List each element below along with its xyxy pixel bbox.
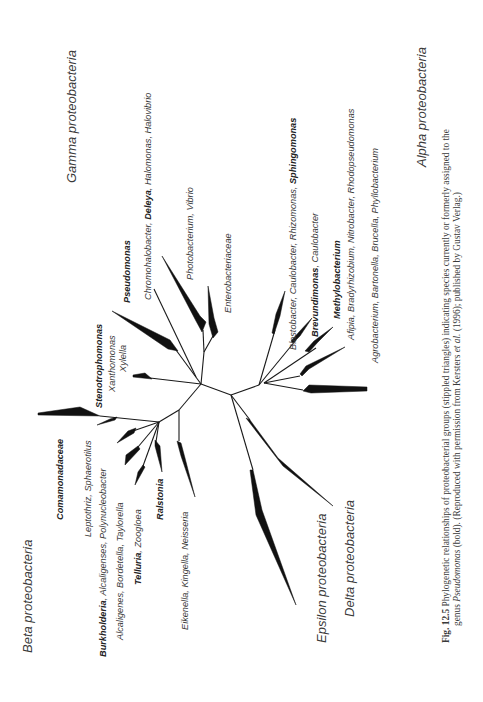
branch-xylella <box>150 378 201 384</box>
triangle-blastobacter <box>272 291 285 334</box>
taxon-leptothrix-sphaerotilus: Leptothriz, Sphaerotilus <box>83 440 93 537</box>
tree-branches <box>100 289 316 470</box>
taxon-xylella: Xylella <box>118 345 128 373</box>
label-beta-proteobacteria: Beta proteobacteria <box>20 540 35 653</box>
taxon-enterobacteriaceae: Enterobacteriaceae <box>223 233 233 313</box>
beta-taxa-labels: Comamonadaceae Leptothriz, Sphaerotilus … <box>55 439 190 657</box>
triangle-agrobacterium <box>303 385 367 393</box>
taxon-burkholderia-group: Burkholderia, Alcaligenses, Polynucleoba… <box>98 467 108 657</box>
caption-line-2: genus Pseudomonas (bold). (Reproduced wi… <box>452 192 463 626</box>
taxon-burkholderia: Burkholderia <box>98 600 108 657</box>
taxon-sphingomonas: Sphingomonas <box>288 118 298 184</box>
taxon-ralstonia: Ralstonia <box>155 479 165 520</box>
taxon-pseudomonas: Pseudomonas <box>122 240 132 303</box>
caption-genus: Pseudomonas <box>452 549 462 602</box>
branch-enterobacteriaceae <box>204 336 213 352</box>
label-alpha-proteobacteria: Alpha proteobacteria <box>414 47 429 168</box>
taxon-halomonas-halovibrio: , Halomonas, Halovibrio <box>143 93 153 191</box>
caption-line-1-text: Phylogenetic relationships of proteobact… <box>441 129 452 609</box>
taxon-afipia-group: Afipia, Bradyrhizobium, Nitrobacter, Rho… <box>346 108 356 341</box>
label-delta-proteobacteria: Delta proteobacteria <box>342 500 357 617</box>
taxon-telluria-group: Telluria, Zoogloea <box>133 509 143 585</box>
triangle-leptothrix <box>97 417 117 425</box>
figure-caption: Fig. 12.5 Phylogenetic relationships of … <box>441 129 463 643</box>
triangle-neisseria <box>177 441 195 497</box>
triangle-delta <box>246 418 333 506</box>
taxon-deleya: Deleya <box>143 190 153 220</box>
taxon-photobacterium-vibrio: Photobacterium, Vibrio <box>185 187 195 280</box>
triangle-burkholderia <box>117 428 136 443</box>
caption-line-2-c: (1996); published by Gustav Verlag.) <box>452 192 463 333</box>
caption-line-2-b: (bold). (Reproduced with permission from… <box>452 352 463 549</box>
taxon-alcaligenes-bordetella-taylorella: Alcaligenes, Bordetella, Taylorella <box>115 502 125 641</box>
taxon-blastobacter-caulobacter-rhizomonas: Blastobacter, Caulobacter, Rhizomonas, <box>288 184 298 350</box>
taxon-telluria: Telluria <box>133 553 143 585</box>
branch-agrobacterium <box>264 383 303 390</box>
branch-photo-entero <box>201 352 204 384</box>
branch-photobacterium <box>203 330 204 352</box>
branch-epsilon <box>231 395 253 470</box>
triangle-comamonadaceae <box>38 407 100 416</box>
taxon-methylobacterium: Methylobacterium <box>332 240 342 319</box>
branch-delta-epsilon <box>231 395 250 420</box>
group-labels: Gamma proteobacteria Beta proteobacteria… <box>20 47 429 653</box>
caption-line-1: Fig. 12.5 Phylogenetic relationships of … <box>441 129 452 643</box>
taxon-eikenella-kingella-neisseria: Eikenella, Kingella, Neisseria <box>180 512 190 630</box>
taxon-blastobacter-group: Blastobacter, Caulobacter, Rhizomonas, S… <box>288 118 298 350</box>
branch-pseudomonas <box>176 350 201 384</box>
taxon-chromohalobacter-group: Chromohalobacter, Deleya, Halomonas, Hal… <box>143 93 153 300</box>
triangle-telluria <box>135 465 145 485</box>
taxon-stenotrophomonas: Stenotrophomonas <box>94 324 104 408</box>
triangle-xylella <box>133 373 152 379</box>
branch-gamma-neisseria-node <box>179 384 201 410</box>
taxon-alcaligenses-polynucleobacter: , Alcaligenses, Polynucleobacter <box>98 467 108 600</box>
taxon-zoogloea: , Zoogloea <box>133 509 143 552</box>
gamma-taxa-labels: Stenotrophomonas Xanthomonas Xylella Pse… <box>94 93 233 408</box>
triangle-alcaligenes <box>125 446 140 465</box>
taxon-brevundimonas-group: Brevundimonas, Caulobacter <box>310 212 320 337</box>
caption-figure-number: Fig. 12.5 <box>441 609 451 643</box>
phylogenetic-tree-figure: Gamma proteobacteria Beta proteobacteria… <box>0 0 483 702</box>
label-epsilon-proteobacteria: Epsilon proteobacteria <box>314 514 329 643</box>
branch-gamma-alpha <box>201 384 231 395</box>
taxon-chromohalobacter: Chromohalobacter, <box>143 220 153 300</box>
alpha-taxa-labels: Blastobacter, Caulobacter, Rhizomonas, S… <box>288 108 380 364</box>
taxon-xanthomonas: Xanthomonas <box>107 335 117 393</box>
branch-alpha-inner <box>231 385 259 395</box>
triangle-epsilon <box>250 470 296 605</box>
triangle-enterobacteriaceae <box>208 286 218 338</box>
taxon-caulobacter: , Caulobacter <box>310 212 320 268</box>
triangle-ralstonia <box>155 440 162 472</box>
caption-line-2-a: genus <box>452 602 462 626</box>
branch-neisseria-node-beta <box>159 410 179 422</box>
taxon-brevundimonas: Brevundimonas <box>310 268 320 337</box>
caption-et-al: et al. <box>452 334 462 353</box>
label-gamma-proteobacteria: Gamma proteobacteria <box>64 50 79 183</box>
taxon-comamonadaceae: Comamonadaceae <box>55 439 65 520</box>
taxon-agrobacterium-group: Agrobacterium, Bartonella, Brucella, Phy… <box>370 148 380 364</box>
